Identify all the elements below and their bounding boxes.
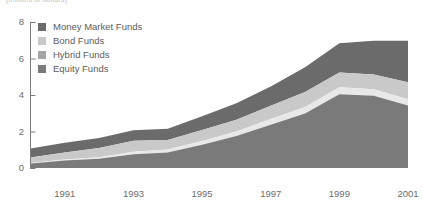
legend-item-money-market[interactable]: Money Market Funds [38, 20, 142, 34]
y-axis-label-0: 0 [8, 163, 24, 173]
y-axis-label-6: 6 [8, 54, 24, 64]
x-axis-label-1999: 1999 [319, 188, 359, 199]
x-axis-label-1991: 1991 [45, 188, 85, 199]
x-axis-label-2001: 2001 [388, 188, 423, 199]
legend-item-equity[interactable]: Equity Funds [38, 62, 142, 76]
legend-swatch-bond [38, 37, 46, 45]
y-axis-label-2: 2 [8, 127, 24, 137]
legend-item-hybrid[interactable]: Hybrid Funds [38, 48, 142, 62]
legend-swatch-equity [38, 65, 46, 73]
legend-swatch-hybrid [38, 51, 46, 59]
legend-label-money-market: Money Market Funds [53, 22, 142, 32]
y-tick-marks [31, 23, 36, 169]
axis-group [31, 22, 36, 169]
legend-label-bond: Bond Funds [53, 36, 104, 46]
x-axis-label-1995: 1995 [182, 188, 222, 199]
x-axis-label-1993: 1993 [113, 188, 153, 199]
y-axis-label-4: 4 [8, 90, 24, 100]
legend-label-equity: Equity Funds [53, 64, 108, 74]
y-axis-label-8: 8 [8, 17, 24, 27]
legend-item-bond[interactable]: Bond Funds [38, 34, 142, 48]
x-axis-label-1997: 1997 [251, 188, 291, 199]
legend-swatch-money-market [38, 23, 46, 31]
legend-label-hybrid: Hybrid Funds [53, 50, 110, 60]
chart-legend: Money Market Funds Bond Funds Hybrid Fun… [38, 20, 142, 76]
